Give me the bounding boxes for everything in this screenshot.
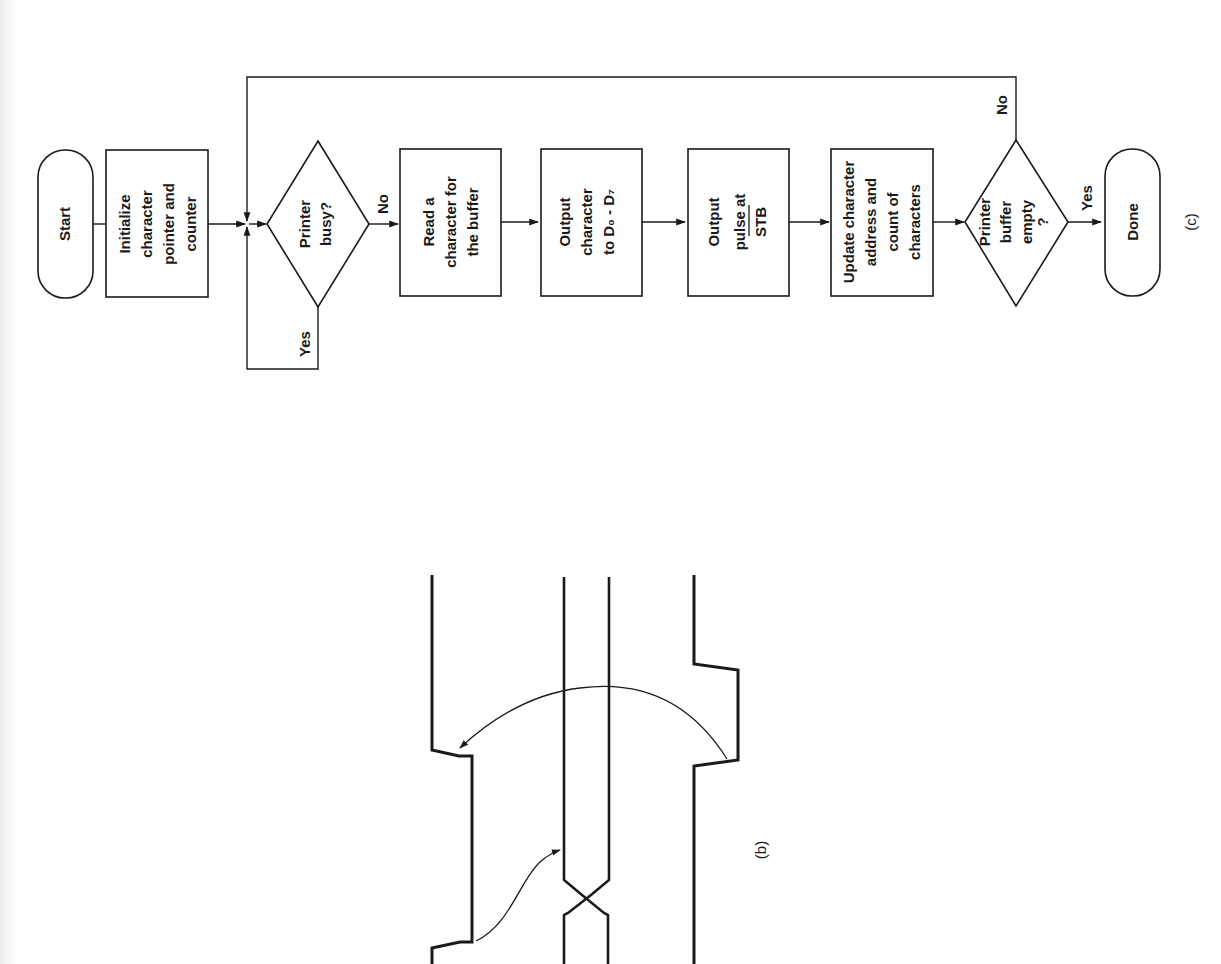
read-character-box: Read a character for the buffer <box>400 149 501 296</box>
busy-line-1: Printer <box>296 200 313 249</box>
printer-buffer-empty-decision: Printer buffer empty ? <box>965 140 1068 306</box>
read-line-1: Read a <box>420 197 437 247</box>
empty-line-4: ? <box>1034 217 1051 226</box>
waveform-right-pulse <box>694 575 738 964</box>
start-label: Start <box>56 207 73 241</box>
data-bus-line-2 <box>564 577 609 964</box>
busy-no-label: No <box>374 194 391 214</box>
output-pulse-box: Output pulse at STB <box>688 149 789 296</box>
read-line-3: the buffer <box>464 187 481 256</box>
init-line-4: counter <box>182 196 199 251</box>
update-line-2: address and <box>862 178 879 266</box>
update-line-1: Update character <box>840 161 857 284</box>
pulse-line-2: pulse at <box>731 194 748 251</box>
figure-caption-c: (c) <box>1182 213 1199 231</box>
empty-no-label: No <box>993 95 1010 115</box>
busy-line-2: busy? <box>317 202 334 246</box>
document-page: Start Initialize character pointer and c… <box>0 0 1221 964</box>
figure-caption-b: (b) <box>752 841 769 859</box>
update-character-box: Update character address and count of ch… <box>831 149 933 296</box>
output-character-box: Output character to D₀ - D₇ <box>541 149 642 296</box>
init-line-3: pointer and <box>160 183 177 265</box>
printer-busy-decision: Printer busy? <box>267 141 369 307</box>
outchar-line-2: character <box>578 188 595 256</box>
init-line-2: character <box>138 190 155 258</box>
busy-yes-label: Yes <box>296 331 313 357</box>
pulse-line-3-stb: STB <box>752 207 769 237</box>
pulse-line-1: Output <box>705 197 722 246</box>
empty-line-3: empty <box>1018 199 1035 244</box>
done-label: Done <box>1124 203 1141 241</box>
done-terminal: Done <box>1105 149 1160 296</box>
start-terminal: Start <box>38 150 93 298</box>
initialize-box: Initialize character pointer and counter <box>106 150 208 297</box>
empty-line-2: buffer <box>997 201 1014 244</box>
figure-canvas: Start Initialize character pointer and c… <box>0 0 1221 964</box>
update-line-4: characters <box>906 184 923 260</box>
flowchart: Start Initialize character pointer and c… <box>38 77 1199 369</box>
init-line-1: Initialize <box>116 194 133 253</box>
timing-diagram: (b) <box>432 575 769 964</box>
outchar-line-1: Output <box>556 197 573 246</box>
empty-yes-label: Yes <box>1078 185 1095 211</box>
empty-line-1: Printer <box>976 198 993 247</box>
timing-arrow-long <box>460 686 727 759</box>
timing-arrow-short <box>476 850 560 941</box>
outchar-line-3: to D₀ - D₇ <box>600 189 617 255</box>
read-line-2: character for <box>442 176 459 268</box>
waveform-left <box>432 575 472 964</box>
data-bus-line-1 <box>564 577 608 964</box>
update-line-3: count of <box>884 191 901 251</box>
